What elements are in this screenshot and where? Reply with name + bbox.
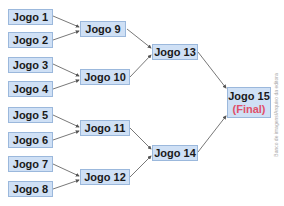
match-label: Jogo 14 bbox=[154, 147, 196, 160]
final-sublabel: (Final) bbox=[233, 103, 266, 116]
final-label: Jogo 15 bbox=[228, 90, 270, 103]
match-box-jogo-7: Jogo 7 bbox=[8, 156, 53, 172]
match-label: Jogo 3 bbox=[13, 59, 48, 72]
match-box-jogo-2: Jogo 2 bbox=[8, 32, 53, 48]
match-label: Jogo 8 bbox=[13, 183, 48, 196]
image-credit: Banco de imagens/Arquivo da editora bbox=[273, 73, 279, 156]
match-label: Jogo 12 bbox=[84, 171, 126, 184]
match-box-jogo-15-final: Jogo 15 (Final) bbox=[227, 87, 271, 118]
match-label: Jogo 13 bbox=[154, 46, 196, 59]
match-label: Jogo 5 bbox=[13, 109, 48, 122]
match-box-jogo-8: Jogo 8 bbox=[8, 181, 53, 197]
match-label: Jogo 11 bbox=[85, 122, 126, 135]
match-label: Jogo 7 bbox=[13, 158, 48, 171]
match-box-jogo-9: Jogo 9 bbox=[80, 21, 126, 37]
match-label: Jogo 10 bbox=[84, 71, 126, 84]
match-box-jogo-13: Jogo 13 bbox=[152, 44, 198, 60]
match-label: Jogo 9 bbox=[85, 23, 120, 36]
match-box-jogo-12: Jogo 12 bbox=[80, 169, 130, 185]
match-box-jogo-14: Jogo 14 bbox=[152, 145, 198, 161]
match-box-jogo-5: Jogo 5 bbox=[8, 107, 53, 123]
match-box-jogo-3: Jogo 3 bbox=[8, 57, 53, 73]
match-box-jogo-10: Jogo 10 bbox=[80, 69, 130, 85]
match-box-jogo-1: Jogo 1 bbox=[8, 9, 53, 25]
match-box-jogo-4: Jogo 4 bbox=[8, 81, 53, 97]
match-label: Jogo 6 bbox=[13, 134, 48, 147]
match-label: Jogo 4 bbox=[13, 83, 48, 96]
match-box-jogo-6: Jogo 6 bbox=[8, 132, 53, 148]
match-label: Jogo 2 bbox=[13, 34, 48, 47]
match-label: Jogo 1 bbox=[13, 11, 48, 24]
match-box-jogo-11: Jogo 11 bbox=[80, 120, 130, 136]
